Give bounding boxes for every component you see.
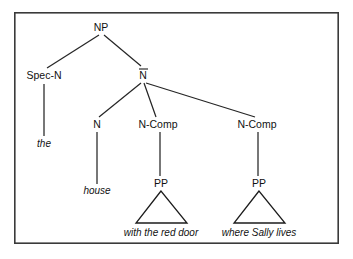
node-pp-1: PP [154, 177, 168, 189]
node-pp-2: PP [252, 177, 266, 189]
terminal-the: the [37, 138, 51, 149]
node-n-head: N [93, 118, 101, 130]
node-np: NP [94, 21, 109, 33]
syntax-tree-figure: NP Spec-N N N N-Comp N-Comp PP PP the ho… [0, 0, 353, 259]
node-spec-n: Spec-N [26, 69, 61, 81]
syntax-tree-canvas: NP Spec-N N N N-Comp N-Comp PP PP the ho… [0, 0, 353, 259]
terminal-house: house [83, 185, 111, 196]
terminal-with-the-red-door: with the red door [124, 227, 199, 238]
node-n-comp-2: N-Comp [237, 118, 276, 130]
node-n-bar: N [139, 69, 147, 81]
terminal-where-sally-lives: where Sally lives [222, 227, 296, 238]
node-n-comp-1: N-Comp [138, 118, 177, 130]
